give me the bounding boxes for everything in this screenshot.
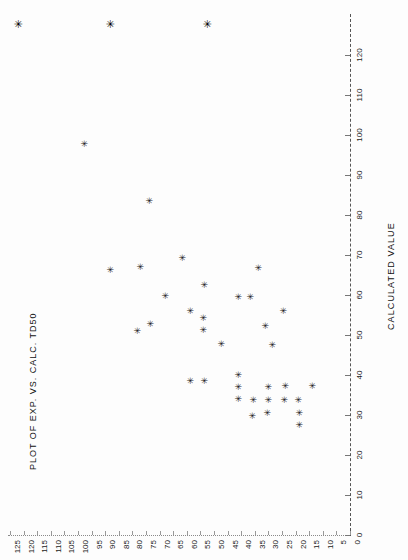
data-point-marker: ✳ xyxy=(282,383,289,390)
calculated-tick-label: 60 xyxy=(356,291,364,300)
calculated-tick-mark xyxy=(345,455,350,456)
experimental-tick-label: 80 xyxy=(136,540,144,549)
calculated-tick-label: 10 xyxy=(356,491,364,500)
experimental-tick-mark xyxy=(105,531,106,535)
data-point-marker: ✳ xyxy=(106,21,113,28)
experimental-tick-label: 20 xyxy=(300,540,308,549)
rotated-plot-layer: 1251201151101051009590858075706560555045… xyxy=(0,0,408,560)
calculated-tick-label: 30 xyxy=(356,411,364,420)
data-point-marker: ✳ xyxy=(265,397,272,404)
calculated-tick-mark xyxy=(345,415,350,416)
experimental-axis-spine xyxy=(8,535,350,536)
experimental-tick-mark xyxy=(187,531,188,535)
calculated-tick-mark xyxy=(345,495,350,496)
calculated-tick-mark xyxy=(345,55,350,56)
calculated-tick-label: 90 xyxy=(356,171,364,180)
calculated-tick-mark xyxy=(345,215,350,216)
calculated-tick-label: 50 xyxy=(356,331,364,340)
experimental-tick-mark xyxy=(200,531,201,535)
experimental-tick-label: 15 xyxy=(313,540,321,549)
experimental-tick-mark xyxy=(255,531,256,535)
experimental-tick-label: 40 xyxy=(245,540,253,549)
experimental-tick-label: 45 xyxy=(232,540,240,549)
calculated-tick-label: 100 xyxy=(356,128,364,141)
experimental-tick-mark xyxy=(64,531,65,535)
data-point-marker: ✳ xyxy=(309,383,316,390)
calculated-tick-mark xyxy=(345,335,350,336)
experimental-tick-label: 25 xyxy=(286,540,294,549)
experimental-tick-mark xyxy=(214,531,215,535)
experimental-tick-mark xyxy=(119,531,120,535)
data-point-marker: ✳ xyxy=(179,255,186,262)
experimental-tick-label: 35 xyxy=(259,540,267,549)
data-point-marker: ✳ xyxy=(269,342,276,349)
calculated-axis-spine xyxy=(350,14,351,536)
data-point-marker: ✳ xyxy=(295,397,302,404)
calculated-tick-label: 80 xyxy=(356,211,364,220)
experimental-tick-mark xyxy=(173,531,174,535)
experimental-tick-mark xyxy=(323,531,324,535)
calculated-tick-mark xyxy=(345,535,350,536)
experimental-tick-label: 90 xyxy=(109,540,117,549)
data-point-marker: ✳ xyxy=(218,341,225,348)
experimental-tick-mark xyxy=(78,531,79,535)
experimental-tick-label: 55 xyxy=(204,540,212,549)
experimental-tick-label: 70 xyxy=(164,540,172,549)
data-point-marker: ✳ xyxy=(281,397,288,404)
experimental-tick-label: 5 xyxy=(340,540,348,544)
calculated-tick-label: 20 xyxy=(356,451,364,460)
data-point-marker: ✳ xyxy=(147,321,154,328)
data-point-marker: ✳ xyxy=(249,413,256,420)
experimental-tick-mark xyxy=(37,531,38,535)
scatter-plot-figure: 1251201151101051009590858075706560555045… xyxy=(0,0,408,560)
experimental-tick-label: 50 xyxy=(218,540,226,549)
data-point-marker: ✳ xyxy=(187,308,194,315)
experimental-tick-mark xyxy=(296,531,297,535)
experimental-tick-label: 65 xyxy=(177,540,185,549)
experimental-tick-label: 75 xyxy=(150,540,158,549)
calculated-tick-mark xyxy=(345,135,350,136)
experimental-tick-label: 30 xyxy=(272,540,280,549)
experimental-tick-label: 85 xyxy=(123,540,131,549)
experimental-tick-mark xyxy=(241,531,242,535)
data-point-marker: ✳ xyxy=(296,422,303,429)
plot-title: PLOT OF EXP. VS. CALC. TD50 xyxy=(28,312,38,470)
experimental-tick-label: 10 xyxy=(327,540,335,549)
data-point-marker: ✳ xyxy=(262,323,269,330)
data-point-marker: ✳ xyxy=(187,378,194,385)
experimental-tick-mark xyxy=(92,531,93,535)
data-point-marker: ✳ xyxy=(107,267,114,274)
experimental-tick-label: 105 xyxy=(68,540,76,553)
experimental-tick-mark xyxy=(24,531,25,535)
data-point-marker: ✳ xyxy=(200,315,207,322)
experimental-tick-label: 60 xyxy=(191,540,199,549)
data-point-marker: ✳ xyxy=(235,396,242,403)
experimental-tick-label: 120 xyxy=(28,540,36,553)
data-point-marker: ✳ xyxy=(235,384,242,391)
data-point-marker: ✳ xyxy=(137,264,144,271)
experimental-tick-mark xyxy=(51,531,52,535)
experimental-tick-mark xyxy=(10,531,11,535)
calculated-tick-mark xyxy=(345,95,350,96)
data-point-marker: ✳ xyxy=(255,265,262,272)
calculated-tick-mark xyxy=(345,255,350,256)
data-point-marker: ✳ xyxy=(296,410,303,417)
data-point-marker: ✳ xyxy=(203,21,210,28)
data-point-marker: ✳ xyxy=(265,384,272,391)
plot-area: 1251201151101051009590858075706560555045… xyxy=(0,0,408,560)
experimental-tick-label: 110 xyxy=(55,540,63,553)
calculated-tick-mark xyxy=(345,375,350,376)
experimental-tick-mark xyxy=(268,531,269,535)
experimental-tick-label: 95 xyxy=(96,540,104,549)
calculated-tick-label: 120 xyxy=(356,48,364,61)
data-point-marker: ✳ xyxy=(134,328,141,335)
experimental-tick-mark xyxy=(309,531,310,535)
data-point-marker: ✳ xyxy=(146,198,153,205)
calculated-tick-label: 0 xyxy=(356,533,364,537)
data-point-marker: ✳ xyxy=(250,397,257,404)
experimental-tick-mark xyxy=(228,531,229,535)
experimental-tick-label: 115 xyxy=(41,540,49,553)
experimental-tick-label: 100 xyxy=(82,540,90,553)
experimental-tick-mark xyxy=(336,531,337,535)
data-point-marker: ✳ xyxy=(280,308,287,315)
